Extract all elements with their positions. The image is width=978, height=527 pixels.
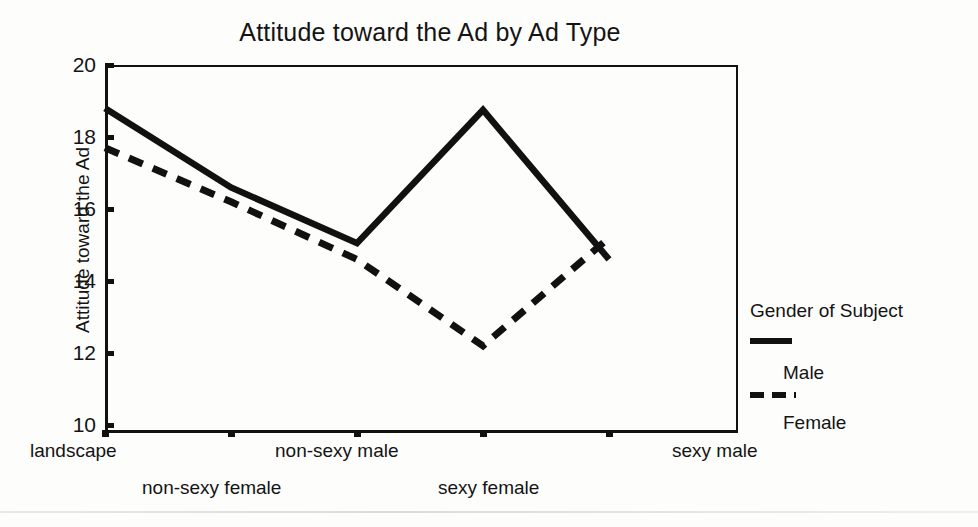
plot-area xyxy=(105,65,738,433)
y-tick-label-10: 10 xyxy=(54,414,96,435)
x-tick-mark-landscape xyxy=(102,430,109,437)
x-tick-label-sexy-female: sexy female xyxy=(438,478,539,497)
page-edge-divider xyxy=(0,511,978,513)
y-tick-mark-18 xyxy=(105,135,114,140)
x-tick-mark-non-sexy-male xyxy=(354,430,361,437)
y-tick-label-20: 20 xyxy=(54,54,96,75)
x-tick-mark-sexy-male xyxy=(606,430,613,437)
legend-title: Gender of Subject xyxy=(750,300,903,322)
y-tick-mark-16 xyxy=(105,207,114,212)
legend-label-male: Male xyxy=(783,362,824,384)
x-tick-mark-non-sexy-female xyxy=(228,430,235,437)
legend-swatch-female-icon xyxy=(750,392,796,398)
legend-swatch-male-icon xyxy=(750,338,792,344)
y-tick-mark-14 xyxy=(105,279,114,284)
y-tick-mark-10 xyxy=(105,423,114,428)
x-tick-label-sexy-male: sexy male xyxy=(672,441,758,460)
x-tick-mark-sexy-female xyxy=(480,430,487,437)
chart-figure: Attitude toward the Ad by Ad Type Attitu… xyxy=(0,0,978,527)
chart-legend: Gender of Subject Male Female xyxy=(748,300,973,435)
x-tick-label-landscape: landscape xyxy=(30,441,117,460)
y-tick-mark-12 xyxy=(105,351,114,356)
y-tick-label-16: 16 xyxy=(54,198,96,219)
x-tick-label-non-sexy-male: non-sexy male xyxy=(275,441,399,460)
legend-label-female: Female xyxy=(783,412,846,434)
y-tick-label-18: 18 xyxy=(54,126,96,147)
y-tick-mark-20 xyxy=(105,63,114,68)
y-tick-label-14: 14 xyxy=(54,270,96,291)
y-tick-label-12: 12 xyxy=(54,342,96,363)
x-tick-label-non-sexy-female: non-sexy female xyxy=(142,478,281,497)
chart-title: Attitude toward the Ad by Ad Type xyxy=(170,18,690,47)
